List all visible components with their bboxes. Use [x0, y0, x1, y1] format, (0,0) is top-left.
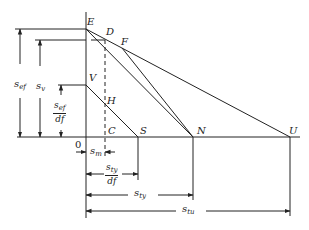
dim-label-s-m: sm — [90, 146, 102, 158]
point-label-N: N — [197, 126, 206, 136]
point-label-F: F — [121, 37, 128, 47]
dim-label-s-tu: stu — [182, 204, 194, 216]
line-EU — [86, 29, 290, 137]
dim-label-s-ty: sty — [134, 188, 146, 200]
point-label-S: S — [140, 126, 147, 136]
diagram-lines — [0, 0, 309, 230]
point-label-C: C — [108, 126, 116, 136]
dim-label-s-ty-over-df: sty df — [105, 163, 118, 186]
point-label-U: U — [289, 126, 297, 136]
origin-label: 0 — [75, 140, 81, 150]
point-label-E: E — [87, 17, 94, 27]
point-label-H: H — [107, 96, 116, 106]
dim-label-s-v: sv — [36, 81, 45, 93]
point-label-V: V — [89, 73, 96, 83]
dim-label-s-ef: sef — [14, 79, 26, 91]
line-EN — [86, 29, 193, 137]
dim-label-s-ef-over-df: sef df — [53, 101, 66, 124]
line-FN — [122, 48, 193, 137]
stress-diagram: E D F V H C S N U 0 sef sv sef df sm sty… — [0, 0, 309, 230]
point-label-D: D — [106, 27, 114, 37]
